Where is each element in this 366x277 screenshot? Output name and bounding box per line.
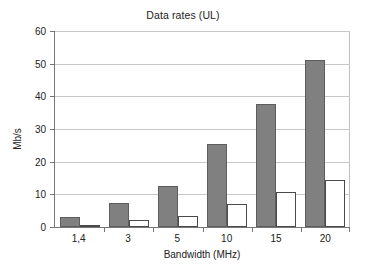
chart-title: Data rates (UL) bbox=[0, 9, 366, 21]
y-axis-tick bbox=[50, 227, 55, 228]
bar-series-a bbox=[60, 217, 80, 227]
y-axis-tick-label: 40 bbox=[35, 91, 46, 102]
y-axis-tick-label: 10 bbox=[35, 189, 46, 200]
bar-series-a bbox=[109, 203, 129, 228]
bar-series-a bbox=[305, 60, 325, 227]
bar-series-b bbox=[276, 192, 296, 227]
bar-group bbox=[153, 31, 202, 227]
bar-group bbox=[104, 31, 153, 227]
bar-series-a bbox=[158, 186, 178, 227]
chart-container: Data rates (UL) Mb/s 0102030405060 1,435… bbox=[0, 0, 366, 277]
bar-group bbox=[203, 31, 252, 227]
x-axis-tick bbox=[301, 227, 302, 232]
bar-group bbox=[55, 31, 104, 227]
bar-groups bbox=[55, 31, 350, 227]
x-axis-tick-label: 10 bbox=[202, 233, 251, 244]
x-axis-tick bbox=[252, 227, 253, 232]
x-axis-tick-label: 3 bbox=[103, 233, 152, 244]
bar-series-a bbox=[256, 104, 276, 227]
x-axis-tick-label: 5 bbox=[153, 233, 202, 244]
x-axis-tick bbox=[203, 227, 204, 232]
bar-group bbox=[301, 31, 350, 227]
y-axis-tick-label: 50 bbox=[35, 58, 46, 69]
bar-series-b bbox=[80, 225, 100, 227]
x-axis-tick-label: 15 bbox=[251, 233, 300, 244]
plot-area: 0102030405060 bbox=[54, 31, 350, 228]
bar-group bbox=[252, 31, 301, 227]
x-axis-tick-label: 20 bbox=[301, 233, 350, 244]
y-axis-tick-label: 0 bbox=[40, 222, 46, 233]
y-axis-tick-label: 30 bbox=[35, 124, 46, 135]
x-axis-title: Bandwidth (MHz) bbox=[54, 249, 350, 260]
bar-series-a bbox=[207, 144, 227, 227]
x-axis-tick bbox=[104, 227, 105, 232]
bar-series-b bbox=[129, 220, 149, 227]
bar-series-b bbox=[325, 180, 345, 227]
x-axis-tick bbox=[349, 227, 350, 232]
bar-series-b bbox=[227, 204, 247, 227]
y-axis-tick-label: 20 bbox=[35, 156, 46, 167]
x-axis-labels: 1,435101520 bbox=[54, 233, 350, 244]
bar-series-b bbox=[178, 216, 198, 227]
y-axis-title: Mb/s bbox=[12, 128, 23, 150]
x-axis-tick-label: 1,4 bbox=[54, 233, 103, 244]
x-axis-tick bbox=[153, 227, 154, 232]
y-axis-tick-label: 60 bbox=[35, 26, 46, 37]
